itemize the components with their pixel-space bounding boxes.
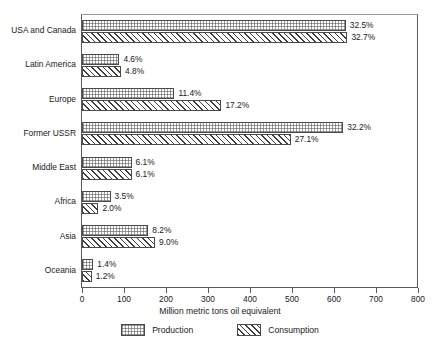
bar-production-latin-america	[82, 54, 119, 65]
y-axis-label-asia: Asia	[2, 232, 76, 241]
x-tick-800	[418, 288, 419, 293]
x-tick-label-500: 500	[285, 294, 299, 304]
bar-production-oceania	[82, 259, 93, 270]
x-tick-label-300: 300	[201, 294, 215, 304]
x-axis-title: Million metric tons oil equivalent	[0, 306, 440, 316]
x-tick-label-0: 0	[80, 294, 85, 304]
x-tick-label-200: 200	[159, 294, 173, 304]
legend-label-consumption: Consumption	[268, 325, 319, 335]
y-axis-label-middle-east: Middle East	[2, 163, 76, 172]
y-axis-label-usa-and-canada: USA and Canada	[2, 26, 76, 35]
x-tick-0	[82, 288, 83, 293]
x-tick-700	[376, 288, 377, 293]
bar-consumption-asia	[82, 237, 155, 248]
bar-value-consumption-africa: 2.0%	[102, 203, 121, 214]
legend-label-production: Production	[152, 325, 193, 335]
x-tick-400	[250, 288, 251, 293]
bar-value-production-middle-east: 6.1%	[136, 157, 155, 168]
bar-production-asia	[82, 225, 148, 236]
bar-value-production-latin-america: 4.6%	[123, 54, 142, 65]
bar-value-consumption-middle-east: 6.1%	[136, 169, 155, 180]
bar-value-production-usa-and-canada: 32.5%	[350, 20, 374, 31]
bar-consumption-latin-america	[82, 66, 121, 77]
x-tick-label-100: 100	[117, 294, 131, 304]
bar-production-middle-east	[82, 157, 132, 168]
bar-value-consumption-former-ussr: 27.1%	[295, 134, 319, 145]
bar-consumption-oceania	[82, 271, 92, 282]
legend-swatch-production-icon	[121, 324, 145, 336]
x-tick-label-400: 400	[243, 294, 257, 304]
x-tick-100	[124, 288, 125, 293]
bar-chart: USA and CanadaLatin AmericaEuropeFormer …	[0, 0, 440, 351]
bar-production-europe	[82, 88, 174, 99]
x-tick-label-800: 800	[411, 294, 425, 304]
bar-consumption-africa	[82, 203, 98, 214]
legend-item-consumption[interactable]: Consumption	[237, 324, 319, 336]
bar-value-consumption-latin-america: 4.8%	[125, 66, 144, 77]
bar-production-africa	[82, 191, 111, 202]
bar-consumption-middle-east	[82, 169, 132, 180]
bar-value-production-africa: 3.5%	[115, 191, 134, 202]
bar-value-production-asia: 8.2%	[152, 225, 171, 236]
x-tick-500	[292, 288, 293, 293]
y-axis-label-oceania: Oceania	[2, 266, 76, 275]
bar-production-usa-and-canada	[82, 20, 346, 31]
bar-production-former-ussr	[82, 122, 343, 133]
chart-legend: Production Consumption	[0, 324, 440, 336]
bar-value-production-europe: 11.4%	[178, 88, 201, 99]
x-tick-600	[334, 288, 335, 293]
bar-value-consumption-europe: 17.2%	[225, 100, 249, 111]
y-axis-label-africa: Africa	[2, 197, 76, 206]
x-tick-200	[166, 288, 167, 293]
legend-item-production[interactable]: Production	[121, 324, 193, 336]
x-tick-300	[208, 288, 209, 293]
x-tick-label-700: 700	[369, 294, 383, 304]
y-axis-label-europe: Europe	[2, 95, 76, 104]
bar-value-consumption-oceania: 1.2%	[96, 271, 115, 282]
bar-value-production-former-ussr: 32.2%	[347, 122, 371, 133]
bar-consumption-former-ussr	[82, 134, 291, 145]
bar-value-production-oceania: 1.4%	[97, 259, 116, 270]
y-axis-label-latin-america: Latin America	[2, 60, 76, 69]
x-tick-label-600: 600	[327, 294, 341, 304]
bar-value-consumption-asia: 9.0%	[159, 237, 178, 248]
bar-consumption-usa-and-canada	[82, 32, 347, 43]
y-axis-label-former-ussr: Former USSR	[2, 129, 76, 138]
bar-consumption-europe	[82, 100, 221, 111]
bar-value-consumption-usa-and-canada: 32.7%	[351, 32, 375, 43]
legend-swatch-consumption-icon	[237, 324, 261, 336]
